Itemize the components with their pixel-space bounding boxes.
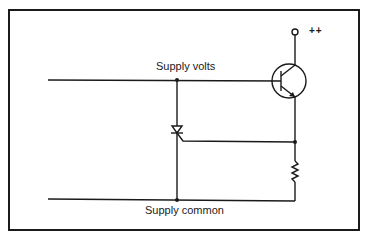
thyristor-gate-wire xyxy=(177,133,295,142)
positive-terminal-icon xyxy=(292,29,298,35)
supply-common-label: Supply common xyxy=(145,204,224,216)
junction-dot xyxy=(293,140,297,144)
junction-dot xyxy=(175,198,179,202)
supply-volts-label: Supply volts xyxy=(156,60,215,72)
supply-volts-wire xyxy=(48,80,281,81)
resistor-icon xyxy=(292,161,298,182)
thyristor-icon xyxy=(172,126,182,133)
junction-dot xyxy=(175,78,179,82)
positive-terminal-label: ++ xyxy=(309,25,323,36)
supply-common-wire xyxy=(48,199,295,201)
transistor-collector xyxy=(281,65,295,76)
